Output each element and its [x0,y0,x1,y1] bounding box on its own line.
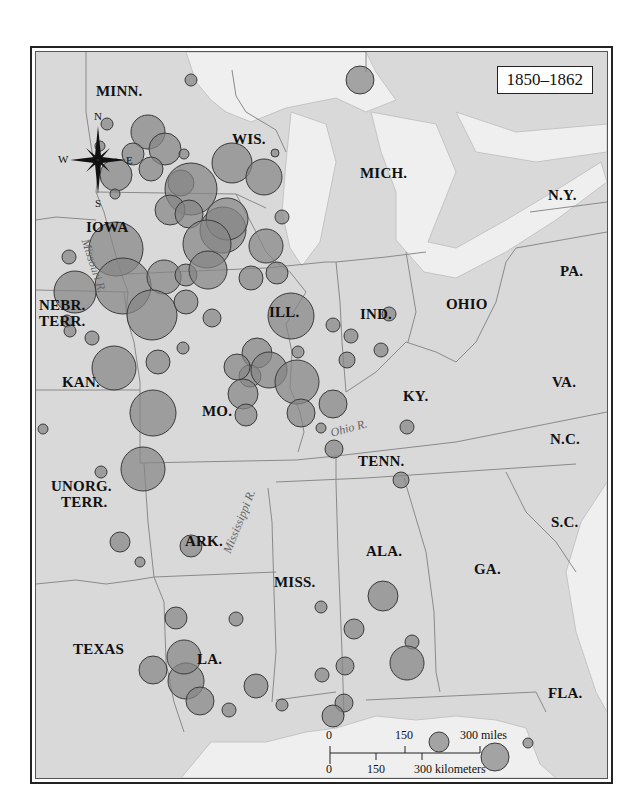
settlement-circle [165,607,187,629]
settlement-circle [167,640,201,674]
settlement-circle [121,447,165,491]
settlement-circle [271,149,279,157]
settlement-circle [315,601,327,613]
state-label-mo: MO. [202,404,232,419]
state-label-terr1: TERR. [39,314,85,329]
state-label-miss: MISS. [274,575,315,590]
state-label-pa: PA. [560,264,583,279]
settlement-circle [339,352,355,368]
map-area: MINN.WIS.MICH.N.Y.IOWAPA.NEBR.TERR.ILL.I… [35,51,608,779]
settlement-circle [203,309,221,327]
settlement-circle [135,557,145,567]
settlement-circle [85,331,99,345]
state-label-mich: MICH. [360,166,407,181]
state-label-tenn: TENN. [358,454,404,469]
settlement-circle [185,74,197,86]
compass-north-label: N [94,110,102,122]
compass-west-label: W [58,153,68,165]
scale-miles-300: 300 miles [460,728,507,743]
state-label-ky: KY. [403,389,428,404]
state-label-unorg: UNORG. [51,479,112,494]
state-label-ala: ALA. [366,544,402,559]
state-label-nebr: NEBR. [39,298,85,313]
settlement-circle [177,342,189,354]
settlement-circle [344,619,364,639]
settlement-circle [127,290,177,340]
settlement-circle [374,343,388,357]
settlement-circle [275,360,319,404]
state-label-kan: KAN. [62,375,100,390]
state-label-ga: GA. [474,562,501,577]
scale-km-0: 0 [326,762,332,777]
settlement-circle [249,229,283,263]
state-label-sc: S.C. [551,515,578,530]
settlement-circle [186,687,214,715]
state-label-ark: ARK. [185,534,223,549]
scale-miles-0: 0 [326,728,332,743]
settlement-circle [276,699,288,711]
settlement-circle [38,424,48,434]
scale-miles-150: 150 [395,728,413,743]
settlement-circle [224,354,250,380]
settlement-circle [130,390,176,436]
state-label-nc: N.C. [550,432,580,447]
map-base [36,52,607,778]
state-label-ny: N.Y. [548,188,577,203]
state-label-texas: TEXAS [73,642,124,657]
settlement-circle [101,118,113,130]
settlement-circle [368,581,398,611]
settlement-circle [390,646,424,680]
compass-south-label: S [95,197,101,209]
state-label-ohio: OHIO [446,297,488,312]
state-label-fla: FLA. [548,686,583,701]
settlement-circle [326,318,340,332]
settlement-circle [325,440,343,458]
settlement-circle [322,705,344,727]
scale-km-300: 300 kilometers [414,762,486,777]
settlement-circle [346,66,374,94]
settlement-circle [393,472,409,488]
settlement-circle [266,262,288,284]
state-label-ill: ILL. [269,305,299,320]
date-range-box: 1850–1862 [497,66,594,94]
settlement-circle [189,251,227,289]
state-label-minn: MINN. [96,84,142,99]
settlement-circle [429,732,449,752]
settlement-circle [344,329,358,343]
settlement-circle [229,612,243,626]
settlement-circle [246,159,282,195]
settlement-circle [523,738,533,748]
settlement-circle [174,290,198,314]
settlement-circle [275,210,289,224]
state-label-wis: WIS. [232,132,266,147]
settlement-circle [319,390,347,418]
settlement-circle [179,149,189,159]
settlement-circle [95,466,107,478]
scale-km-150: 150 [367,762,385,777]
state-label-ind: IND. [360,307,392,322]
settlement-circle [292,346,304,358]
settlement-circle [244,674,268,698]
settlement-circle [139,656,167,684]
map-frame: MINN.WIS.MICH.N.Y.IOWAPA.NEBR.TERR.ILL.I… [30,46,613,784]
settlement-circle [62,250,76,264]
compass-east-label: E [126,154,133,166]
settlement-circle [316,423,326,433]
state-label-terr2: TERR. [61,495,107,510]
state-label-iowa: IOWA [86,220,128,235]
settlement-circle [315,668,329,682]
settlement-circle [110,532,130,552]
settlement-circle [287,399,315,427]
settlement-circle [336,657,354,675]
settlement-circle [110,189,120,199]
settlement-circle [146,350,170,374]
state-label-va: VA. [552,375,576,390]
settlement-circle [222,703,236,717]
settlement-circle [139,157,163,181]
settlement-circle [235,404,257,426]
state-label-la: LA. [197,652,222,667]
settlement-circle [239,266,263,290]
settlement-circle [400,420,414,434]
